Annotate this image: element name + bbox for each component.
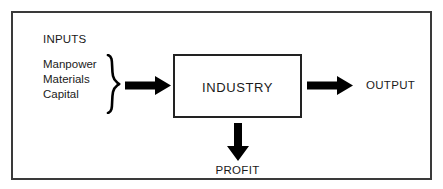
list-item: Manpower: [43, 57, 97, 72]
profit-label: PROFIT: [173, 164, 302, 176]
arrow-right-icon: [307, 76, 353, 95]
curly-brace-right-icon: [105, 54, 121, 114]
arrow-down-icon: [227, 123, 249, 161]
diagram-outer-frame: INPUTS Manpower Materials Capital INDUST…: [11, 11, 432, 180]
arrow-right-icon: [125, 76, 171, 95]
list-item: Materials: [43, 72, 97, 87]
diagram-canvas: INPUTS Manpower Materials Capital INDUST…: [0, 0, 443, 189]
industry-label: INDUSTRY: [175, 80, 300, 95]
industry-process-box: INDUSTRY: [173, 54, 302, 118]
inputs-heading: INPUTS: [43, 33, 86, 46]
output-label: OUTPUT: [366, 79, 415, 91]
inputs-list: Manpower Materials Capital: [43, 57, 97, 102]
list-item: Capital: [43, 87, 97, 102]
